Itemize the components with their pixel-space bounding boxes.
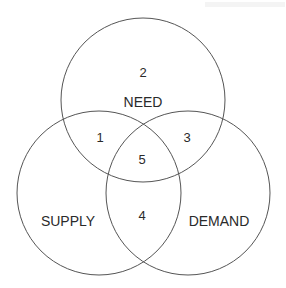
region-3-label: 3: [183, 131, 190, 144]
venn-diagram: [0, 0, 286, 288]
demand-label: DEMAND: [189, 214, 250, 228]
region-2-label: 2: [139, 66, 146, 79]
region-4-label: 4: [138, 209, 145, 222]
supply-label: SUPPLY: [41, 214, 95, 228]
region-1-label: 1: [96, 131, 103, 144]
region-5-label: 5: [138, 153, 145, 166]
need-label: NEED: [124, 95, 163, 109]
